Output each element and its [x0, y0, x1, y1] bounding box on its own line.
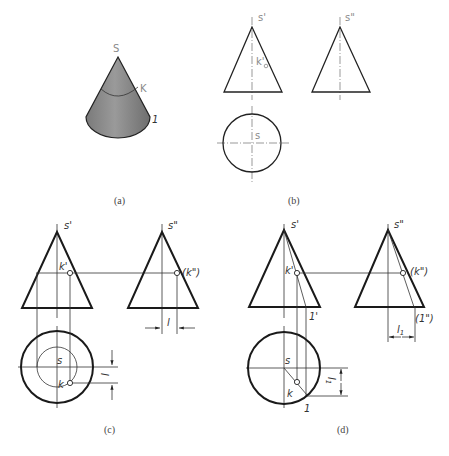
dim-l-top: l: [99, 373, 110, 376]
label-1-top: 1: [304, 403, 310, 414]
point-k-double-prime: [174, 270, 179, 275]
panel-b-projections: s' k' s" s (b): [217, 12, 370, 207]
label-s-prime: s': [64, 220, 72, 231]
label-s-double-prime: s": [345, 12, 355, 23]
label-1-prime: 1': [309, 311, 318, 322]
label-k-top: k: [287, 388, 294, 399]
point-k-prime: [294, 270, 299, 275]
label-k-top: k: [58, 379, 65, 390]
label-1: 1: [152, 114, 158, 125]
label-s-top: s: [285, 355, 290, 366]
dim-l-side: l: [167, 317, 170, 328]
dim-l1-side: l1: [397, 324, 404, 337]
dim-l1-top: l1: [324, 377, 337, 384]
label-k-prime: k': [59, 261, 68, 272]
label-k-prime: k': [285, 265, 294, 276]
label-s-prime: s': [291, 219, 299, 230]
cone-projection-figure: S K 1 (a) s' k' s" s (b) s' k': [0, 0, 449, 456]
panel-a-cone-3d: S K 1 (a): [86, 43, 158, 207]
caption-c: (c): [104, 424, 115, 436]
label-k-double-prime: (k"): [182, 267, 200, 278]
label-S: S: [113, 43, 119, 54]
point-k-prime: [67, 270, 72, 275]
label-s-double-prime: s": [168, 220, 178, 231]
label-s-prime: s': [258, 12, 266, 23]
caption-b: (b): [288, 195, 300, 207]
point-k: [294, 379, 299, 384]
label-s-double-prime: s": [394, 219, 404, 230]
label-s-top: s: [255, 130, 260, 141]
caption-d: (d): [337, 424, 349, 436]
label-K: K: [140, 83, 147, 94]
caption-a: (a): [114, 195, 125, 207]
label-k-prime: k': [256, 56, 265, 67]
panel-c-projections: s' k' s" (k") l s k l (c): [18, 220, 200, 436]
label-k-double-prime: (k"): [410, 266, 428, 277]
panel-d-projections: s' k' 1' s" (k") (1") l1 s k 1: [246, 219, 434, 436]
point-k: [67, 380, 72, 385]
label-s-top: s: [57, 355, 62, 366]
label-1-double-prime: (1"): [415, 313, 434, 324]
point-k-double-prime: [400, 270, 405, 275]
